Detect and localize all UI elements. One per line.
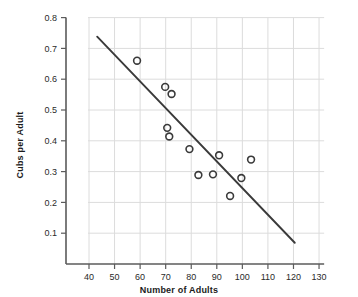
x-axis-tick-label: 110 [261, 272, 275, 282]
x-axis-tick-label: 50 [110, 272, 120, 282]
data-points [134, 57, 255, 199]
axis-ticks [61, 18, 319, 269]
x-axis-tick-label: 60 [135, 272, 145, 282]
x-axis-tick-label: 40 [84, 272, 94, 282]
trend-line-segment [97, 37, 295, 243]
y-axis-tick-label: 0.8 [44, 13, 57, 23]
x-axis-tick-label: 100 [235, 272, 250, 282]
y-axis-tick-label: 0.7 [44, 44, 57, 54]
y-axis-tick-label: 0.5 [44, 105, 57, 115]
grid-lines [88, 18, 324, 264]
x-axis-tick-label: 80 [186, 272, 196, 282]
y-axis-tick-label: 0.1 [44, 228, 57, 238]
data-point-marker [186, 146, 193, 153]
data-point-marker [168, 91, 175, 98]
x-axis-tick-label: 70 [161, 272, 171, 282]
y-axis-tick-label: 0.2 [44, 198, 57, 208]
y-axis-tick-label: 0.4 [44, 136, 57, 146]
data-point-marker [227, 193, 234, 200]
data-point-marker [162, 84, 169, 91]
y-axis-title: Cubs per Adult [15, 85, 25, 205]
data-point-marker [238, 175, 245, 182]
data-point-marker [166, 133, 173, 140]
x-axis-tick-label: 120 [286, 272, 301, 282]
scatter-chart: 0.10.20.30.40.50.60.70.84050607080901001… [0, 0, 358, 297]
y-axis-tick-label: 0.6 [44, 74, 57, 84]
data-point-marker [248, 156, 255, 163]
data-point-marker [195, 172, 202, 179]
plot-area: 0.10.20.30.40.50.60.70.84050607080901001… [0, 0, 358, 297]
x-axis-title: Number of Adults [0, 285, 358, 295]
y-axis-tick-label: 0.3 [44, 167, 57, 177]
x-axis-tick-label: 90 [212, 272, 222, 282]
trend-line [97, 37, 295, 243]
data-point-marker [164, 124, 171, 131]
data-point-marker [134, 57, 141, 64]
x-axis-tick-label: 130 [312, 272, 327, 282]
axis-tick-labels: 0.10.20.30.40.50.60.70.84050607080901001… [44, 13, 326, 282]
